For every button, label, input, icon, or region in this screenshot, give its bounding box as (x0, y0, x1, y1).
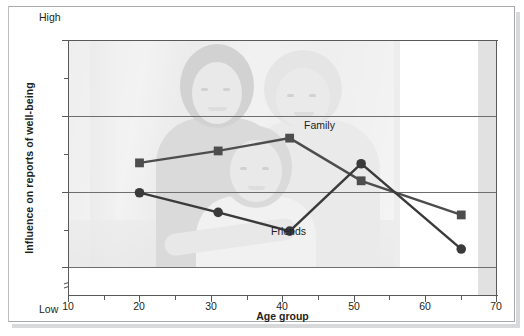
x-axis-line (68, 295, 498, 296)
plot-top-border (68, 40, 498, 41)
markers-friends (135, 159, 466, 254)
series-label-friends: Friends (271, 225, 306, 237)
marker-friends-31 (213, 208, 223, 218)
x-tick-50 (354, 296, 355, 302)
x-tick-20 (139, 296, 140, 302)
y-axis-title: Influence on reports of well-being (20, 40, 38, 296)
marker-family-20 (135, 158, 144, 167)
markers-family (135, 134, 466, 220)
marker-friends-20 (135, 188, 145, 198)
x-tick-25 (175, 296, 176, 300)
x-tick-30 (211, 296, 212, 302)
frame-edge-left (8, 6, 9, 322)
marker-friends-51 (356, 159, 366, 169)
marker-family-41 (285, 134, 294, 143)
series-label-family: Family (304, 119, 335, 131)
x-tick-35 (247, 296, 248, 300)
x-tick-55 (389, 296, 390, 300)
line-family (140, 138, 462, 215)
x-tick-65 (461, 296, 462, 300)
x-tick-45 (318, 296, 319, 300)
plot-area (68, 40, 497, 296)
marker-family-65 (457, 211, 466, 220)
page-shadow-bottom (12, 324, 520, 328)
marker-family-51 (357, 176, 366, 185)
axis-high-label: High (39, 11, 61, 23)
marker-family-31 (214, 147, 223, 156)
axis-low-label: Low (39, 303, 58, 315)
y-axis-line (68, 40, 69, 297)
page-shadow-right (516, 12, 520, 328)
plot-right-border (496, 40, 497, 297)
series-layer (68, 40, 497, 296)
x-tick-40 (282, 296, 283, 302)
marker-friends-65 (456, 244, 466, 254)
x-tick-60 (425, 296, 426, 302)
x-tick-15 (104, 296, 105, 300)
